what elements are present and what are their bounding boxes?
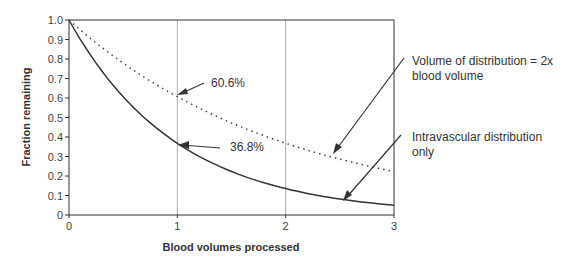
y-tick-label: 0.9 [48, 34, 63, 46]
svg-text:blood volume: blood volume [412, 69, 484, 83]
plot-frame [69, 20, 394, 215]
y-tick-label: 0.6 [48, 92, 63, 104]
y-tick-label: 1.0 [48, 14, 63, 26]
svg-text:only: only [412, 145, 434, 159]
y-tick-label: 0 [57, 209, 63, 221]
x-tick-label: 1 [174, 220, 180, 232]
y-axis: 00.10.20.30.40.50.60.70.80.91.0 [48, 14, 69, 221]
x-axis: 0123 [66, 215, 397, 232]
y-tick-label: 0.3 [48, 151, 63, 163]
svg-text:36.8%: 36.8% [230, 140, 264, 154]
annotation-60: 60.6% [177, 76, 245, 95]
y-tick-label: 0.1 [48, 190, 63, 202]
x-tick-label: 3 [391, 220, 397, 232]
chart: 00.10.20.30.40.50.60.70.80.91.0 0123 Fra… [0, 0, 564, 270]
y-tick-label: 0.4 [48, 131, 63, 143]
grid-lines [177, 20, 285, 215]
y-tick-label: 0.7 [48, 73, 63, 85]
legend-intravascular: Intravascular distribution only [343, 130, 542, 201]
x-tick-label: 0 [66, 220, 72, 232]
y-axis-label: Fraction remaining [20, 67, 32, 166]
x-tick-label: 2 [283, 220, 289, 232]
y-tick-label: 0.5 [48, 112, 63, 124]
y-tick-label: 0.2 [48, 170, 63, 182]
svg-text:60.6%: 60.6% [211, 76, 245, 90]
series-intravascular [69, 20, 394, 205]
svg-text:Intravascular distribution: Intravascular distribution [412, 130, 542, 144]
x-axis-label: Blood volumes processed [163, 241, 300, 253]
svg-text:Volume of distribution = 2x: Volume of distribution = 2x [412, 54, 553, 68]
chart-canvas: 00.10.20.30.40.50.60.70.80.91.0 0123 Fra… [0, 0, 564, 270]
y-tick-label: 0.8 [48, 53, 63, 65]
